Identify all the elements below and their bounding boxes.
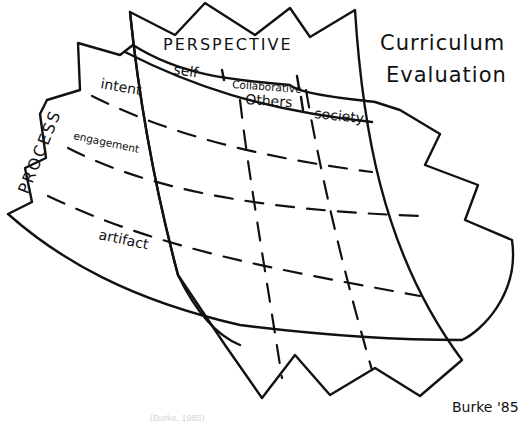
row-label-intent: intent [99, 75, 143, 98]
process-row-lines [48, 96, 420, 296]
column-label-others: Others [245, 91, 293, 110]
row-label-artifact: artifact [97, 226, 150, 252]
perspective-heading: PERSPECTIVE [163, 35, 293, 54]
signature: Burke '85 [452, 399, 519, 415]
curriculum-evaluation-diagram: PERSPECTIVE self Collaborative Others so… [0, 0, 526, 422]
process-sheet [8, 12, 513, 345]
column-label-society: society [314, 105, 365, 126]
column-label-self: self [173, 61, 201, 80]
row-label-engagement: engagement [73, 129, 141, 155]
title-line-2: Evaluation [386, 63, 507, 87]
figure-caption: (Burke, 1985) [150, 413, 205, 422]
perspective-column-lines [240, 90, 372, 378]
process-heading: PROCESS [14, 107, 65, 197]
title-line-1: Curriculum [380, 31, 505, 55]
